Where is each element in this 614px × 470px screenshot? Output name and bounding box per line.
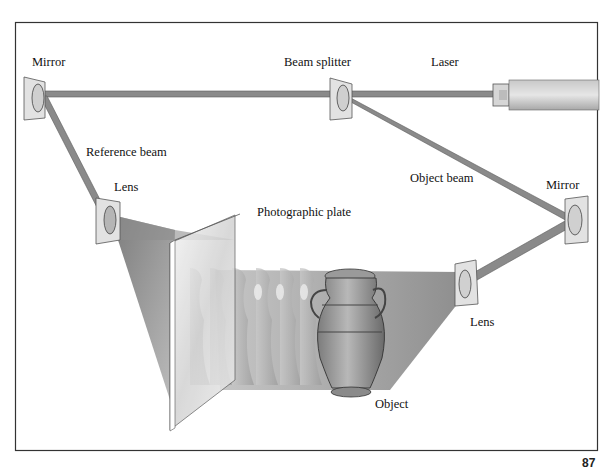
main-beam [42,91,502,97]
label-lens-right: Lens [470,316,494,329]
label-laser: Laser [431,56,459,69]
lens-right [455,260,478,306]
label-reference-beam: Reference beam [86,146,167,159]
mirror-top-left [24,77,45,120]
mirror-right [565,196,588,244]
label-beam-splitter: Beam splitter [284,56,351,69]
laser-source [493,80,599,110]
beam-splitter [330,78,352,120]
lens-left [96,198,120,244]
label-object: Object [375,398,408,411]
label-lens-left: Lens [114,181,138,194]
label-object-beam: Object beam [410,172,474,185]
page-number: 87 [582,456,595,470]
label-mirror-top: Mirror [32,56,65,69]
label-mirror-right: Mirror [546,179,579,192]
label-photographic-plate: Photographic plate [257,206,351,219]
